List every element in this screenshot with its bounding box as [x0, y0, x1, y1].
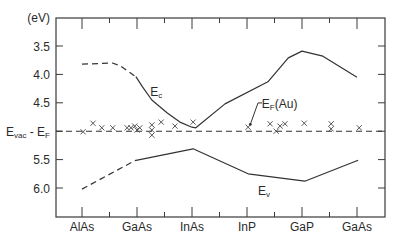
x-category-label: AlAs [70, 220, 95, 234]
y-tick-label: 4.5 [33, 96, 50, 110]
x-category-label: InP [238, 220, 256, 234]
x-category-label: InAs [180, 220, 204, 234]
chart-background [0, 0, 397, 240]
x-category-label: GaAs [122, 220, 152, 234]
arrow-head-icon [249, 123, 252, 126]
y-axis-unit-label: (eV) [27, 11, 50, 25]
y-tick-label: 4.0 [33, 68, 50, 82]
y-tick-label: 3.5 [33, 40, 50, 54]
ef-au-label: EF(Au) [262, 97, 298, 112]
y-tick-label: 6.0 [33, 182, 50, 196]
y-tick-label: 5.5 [33, 153, 50, 167]
band-edge-chart: 3.54.04.5Evac - EF5.56.0 (eV) AlAsGaAsIn… [0, 0, 397, 240]
y-tick-label: Evac - EF [6, 125, 50, 140]
x-category-label: GaP [290, 220, 314, 234]
x-category-label: GaAs [342, 220, 372, 234]
